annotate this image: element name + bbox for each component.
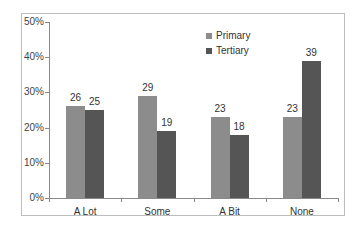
legend-label: Tertiary: [216, 45, 249, 56]
y-tick-label: 40%: [0, 52, 44, 62]
data-label: 39: [296, 47, 326, 58]
legend-swatch-icon: [206, 33, 212, 39]
data-label: 19: [152, 117, 182, 128]
bar-primary: [138, 96, 157, 198]
data-label: 23: [205, 103, 235, 114]
bar-tertiary: [230, 135, 249, 198]
bar-primary: [66, 106, 85, 198]
y-tick-mark: [45, 163, 49, 164]
y-axis: [49, 22, 50, 198]
legend-item: Primary: [206, 28, 250, 43]
y-tick-label: 30%: [0, 87, 44, 97]
x-tick-mark: [338, 198, 339, 202]
legend-label: Primary: [216, 30, 250, 41]
x-tick-label: A Bit: [200, 206, 260, 217]
legend-swatch-icon: [206, 48, 212, 54]
x-tick-mark: [194, 198, 195, 202]
bar-tertiary: [85, 110, 104, 198]
bar-tertiary: [302, 61, 321, 198]
y-tick-mark: [45, 57, 49, 58]
data-label: 29: [133, 82, 163, 93]
x-tick-label: A Lot: [55, 206, 115, 217]
legend-item: Tertiary: [206, 43, 250, 58]
legend: PrimaryTertiary: [206, 28, 250, 58]
y-tick-mark: [45, 128, 49, 129]
x-tick-mark: [266, 198, 267, 202]
y-tick-mark: [45, 22, 49, 23]
y-tick-label: 50%: [0, 17, 44, 27]
x-tick-label: Some: [127, 206, 187, 217]
x-tick-mark: [121, 198, 122, 202]
data-label: 25: [80, 96, 110, 107]
bar-primary: [283, 117, 302, 198]
x-tick-mark: [49, 198, 50, 202]
data-label: 18: [224, 121, 254, 132]
y-tick-label: 10%: [0, 158, 44, 168]
y-tick-label: 20%: [0, 123, 44, 133]
y-tick-label: 0%: [0, 193, 44, 203]
y-tick-mark: [45, 92, 49, 93]
x-tick-label: None: [272, 206, 332, 217]
bar-tertiary: [157, 131, 176, 198]
